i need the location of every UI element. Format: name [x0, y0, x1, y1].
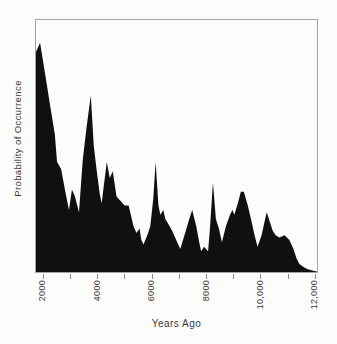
- y-axis-label: Probability of Occurrence: [12, 39, 25, 239]
- x-tick-label: 10,000: [255, 280, 266, 309]
- density-chart: [36, 20, 317, 272]
- x-tick-label: 4000: [92, 280, 103, 301]
- x-tick: [288, 274, 289, 279]
- x-tick: [233, 274, 234, 279]
- x-tick: [97, 274, 98, 279]
- plot-area: [35, 19, 318, 273]
- x-tick: [260, 274, 261, 279]
- x-tick: [152, 274, 153, 279]
- x-axis-label: Years Ago: [35, 318, 318, 329]
- x-tick: [124, 274, 125, 279]
- x-tick: [179, 274, 180, 279]
- x-tick-label: 2000: [38, 280, 49, 301]
- x-tick: [206, 274, 207, 279]
- x-tick-label: 8000: [201, 280, 212, 301]
- x-tick-label: 6000: [147, 280, 158, 301]
- x-tick: [315, 274, 316, 279]
- x-tick: [70, 274, 71, 279]
- density-area-shape: [36, 43, 317, 272]
- x-tick: [43, 274, 44, 279]
- x-tick-label: 12,000: [310, 280, 321, 309]
- figure: Probability of Occurrence 20004000600080…: [0, 0, 337, 344]
